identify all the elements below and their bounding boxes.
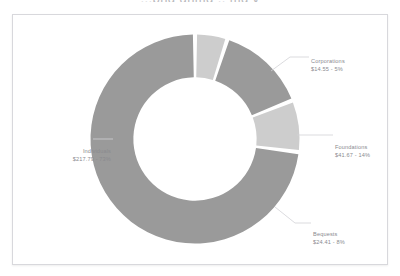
slice-foundations[interactable] [215,40,291,115]
slice-label-corporations-value: $14.55 - 5% [311,65,345,73]
leader-line-bequests [275,207,311,223]
slice-label-corporations: Corporations $14.55 - 5% [311,57,345,73]
slice-label-individuals-value: $217.79 - 73% [43,155,111,163]
donut-slices [90,35,299,244]
slice-label-foundations: Foundations $41.67 - 14% [335,143,370,159]
chart-frame: Corporations $14.55 - 5% Foundations $41… [12,14,388,265]
slice-label-foundations-value: $41.67 - 14% [335,151,370,159]
slice-label-individuals-name: Individuals [83,148,111,154]
cut-off-title: ...png gnmg .. mg y [0,0,400,2]
slice-label-bequests-value: $24.41 - 8% [313,238,345,246]
slice-label-foundations-name: Foundations [335,144,367,150]
donut-chart: Corporations $14.55 - 5% Foundations $41… [13,15,389,266]
leader-line-corporations [271,57,309,71]
slice-label-individuals: Individuals $217.79 - 73% [43,147,111,163]
donut-svg [13,15,389,266]
slice-label-bequests-name: Bequests [313,231,338,237]
slice-label-corporations-name: Corporations [311,58,345,64]
slice-label-bequests: Bequests $24.41 - 8% [313,230,345,246]
